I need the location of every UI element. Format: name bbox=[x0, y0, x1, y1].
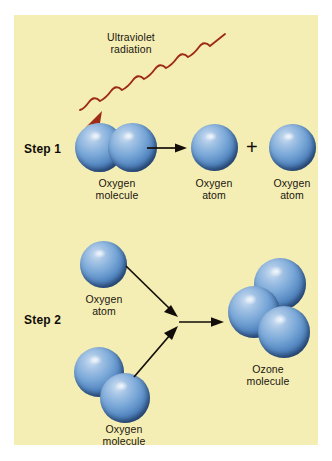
arrow-up-right-icon bbox=[134, 326, 178, 377]
step2-ozone-molecule-label: Ozone molecule bbox=[223, 364, 313, 387]
arrow-right-icon bbox=[179, 317, 224, 327]
step2-ozone-molecule bbox=[226, 258, 318, 368]
arrow-down-right-icon bbox=[126, 266, 178, 317]
ozone-formation-figure: Ultraviolet radiation Step 1 Oxygen mole… bbox=[0, 0, 332, 461]
diagram-panel: Ultraviolet radiation Step 1 Oxygen mole… bbox=[14, 15, 318, 445]
oxygen-sphere bbox=[258, 306, 310, 358]
